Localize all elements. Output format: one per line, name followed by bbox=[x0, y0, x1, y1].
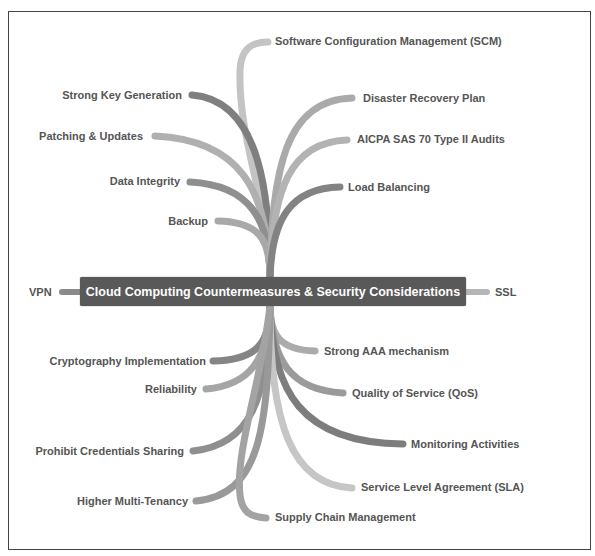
central-topic[interactable]: Cloud Computing Countermeasures & Securi… bbox=[80, 277, 466, 306]
node-supply-chain-management[interactable]: Supply Chain Management bbox=[275, 511, 416, 524]
node-aicpa-audits[interactable]: AICPA SAS 70 Type II Audits bbox=[357, 133, 505, 146]
node-ssl[interactable]: SSL bbox=[495, 286, 516, 299]
node-scm[interactable]: Software Configuration Management (SCM) bbox=[275, 35, 502, 48]
node-backup[interactable]: Backup bbox=[168, 215, 208, 228]
node-vpn[interactable]: VPN bbox=[29, 286, 52, 299]
node-load-balancing[interactable]: Load Balancing bbox=[348, 181, 430, 194]
node-strong-key-generation[interactable]: Strong Key Generation bbox=[62, 89, 182, 102]
node-patching-updates[interactable]: Patching & Updates bbox=[39, 130, 143, 143]
node-quality-of-service[interactable]: Quality of Service (QoS) bbox=[352, 387, 478, 400]
node-disaster-recovery-plan[interactable]: Disaster Recovery Plan bbox=[363, 92, 485, 105]
node-reliability[interactable]: Reliability bbox=[145, 383, 197, 396]
node-cryptography-implementation[interactable]: Cryptography Implementation bbox=[50, 355, 206, 368]
node-strong-aaa-mechanism[interactable]: Strong AAA mechanism bbox=[324, 345, 449, 358]
node-monitoring-activities[interactable]: Monitoring Activities bbox=[411, 438, 519, 451]
branch-sla bbox=[270, 306, 352, 488]
node-sla[interactable]: Service Level Agreement (SLA) bbox=[361, 481, 524, 494]
node-prohibit-credentials-sharing[interactable]: Prohibit Credentials Sharing bbox=[35, 445, 184, 458]
node-higher-multi-tenancy[interactable]: Higher Multi-Tenancy bbox=[77, 495, 188, 508]
node-data-integrity[interactable]: Data Integrity bbox=[110, 175, 180, 188]
